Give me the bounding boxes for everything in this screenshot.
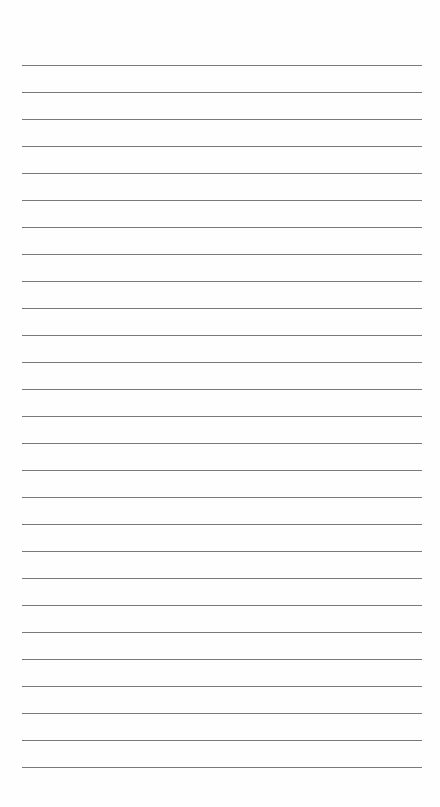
ruled-line: [22, 470, 422, 471]
ruled-line: [22, 200, 422, 201]
ruled-line: [22, 578, 422, 579]
ruled-line: [22, 65, 422, 66]
ruled-line: [22, 119, 422, 120]
ruled-line: [22, 308, 422, 309]
ruled-line: [22, 416, 422, 417]
ruled-line: [22, 605, 422, 606]
ruled-line: [22, 686, 422, 687]
ruled-line: [22, 146, 422, 147]
ruled-line: [22, 524, 422, 525]
ruled-line: [22, 632, 422, 633]
ruled-line: [22, 659, 422, 660]
ruled-line: [22, 389, 422, 390]
ruled-line: [22, 497, 422, 498]
ruled-line: [22, 443, 422, 444]
ruled-line: [22, 713, 422, 714]
ruled-line: [22, 740, 422, 741]
ruled-line: [22, 281, 422, 282]
ruled-line: [22, 173, 422, 174]
ruled-line: [22, 227, 422, 228]
ruled-line: [22, 335, 422, 336]
ruled-line: [22, 92, 422, 93]
ruled-line: [22, 362, 422, 363]
ruled-line: [22, 767, 422, 768]
ruled-line: [22, 551, 422, 552]
notepad-page: [0, 0, 440, 807]
ruled-line: [22, 254, 422, 255]
